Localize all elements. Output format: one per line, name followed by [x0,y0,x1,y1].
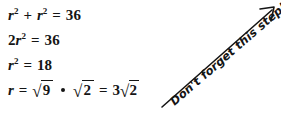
worksheet-page: r2 + r2 = 36 2r2 = 36 r2 = 18 r = √9 √2 … [0,0,281,118]
radical-sqrt-2: √2 [73,79,94,104]
radical-sqrt-9: √9 [32,79,53,104]
equals-operator: = [18,82,29,98]
exponent-2: 2 [14,56,19,66]
equation-line-3: r2 = 18 [8,53,168,78]
equation-line-2: 2r2 = 36 [8,28,168,53]
annotation-text: Don't forget this step! [167,0,281,108]
equals-operator: = [98,82,109,98]
multiplication-dot-icon [61,88,65,92]
equals-operator: = [22,57,33,73]
exponent-2: 2 [43,6,48,16]
equation-line-4: r = √9 √2 = 3√2 [8,78,168,103]
radicand-2: 2 [82,80,95,99]
equals-operator: = [51,7,62,23]
exponent-2: 2 [22,31,27,41]
equals-operator: = [30,32,41,48]
result-value: 36 [66,7,81,23]
radicand-9: 9 [41,80,54,99]
equation-block: r2 + r2 = 36 2r2 = 36 r2 = 18 r = √9 √2 … [8,3,168,103]
coefficient-3: 3 [113,82,121,98]
radicand-2: 2 [129,80,140,99]
variable-r: r [8,82,14,98]
equation-line-1: r2 + r2 = 36 [8,3,168,28]
radical-sqrt-2-final: √2 [120,79,139,104]
result-value: 36 [45,32,60,48]
exponent-2: 2 [14,6,19,16]
coefficient-2: 2 [8,32,16,48]
plus-operator: + [22,7,33,23]
result-value: 18 [37,57,52,73]
